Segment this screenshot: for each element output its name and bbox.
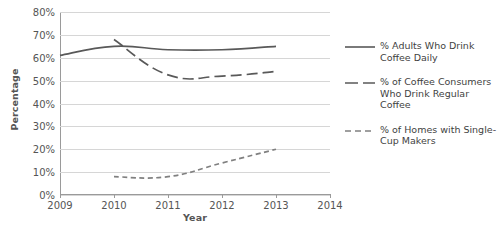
x-tick-label: 2012 [209, 200, 234, 211]
legend-label-regular-coffee: % of Coffee Consumers Who Drink Regular … [380, 76, 491, 111]
y-tick-label: 80% [33, 7, 55, 18]
series-lines [60, 12, 330, 195]
x-tick-mark [330, 194, 331, 198]
y-tick-label: 20% [33, 144, 55, 155]
x-tick-label: 2009 [47, 200, 72, 211]
legend-swatch-long-dash-icon [345, 77, 375, 89]
x-axis-title: Year [60, 212, 330, 223]
legend-line-1: % of Coffee Consumers [380, 76, 491, 87]
series-line [114, 149, 276, 178]
legend-line-1: % of Homes with Single- [380, 124, 496, 135]
line-chart: Percentage 0%10%20%30%40%50%60%70%80% 20… [0, 0, 502, 233]
legend-line-2: Cup Makers [380, 135, 436, 146]
series-line [114, 39, 276, 79]
y-tick-label: 0% [39, 190, 55, 201]
y-tick-label: 10% [33, 167, 55, 178]
legend-line-2: Coffee Daily [380, 52, 438, 63]
legend-line-3: Coffee [380, 99, 411, 110]
y-tick-label: 30% [33, 121, 55, 132]
series-line [60, 46, 276, 55]
legend-label-adults-daily: % Adults Who Drink Coffee Daily [380, 40, 474, 63]
y-tick-label: 70% [33, 29, 55, 40]
gridline: 0% [60, 195, 330, 196]
chart-legend: % Adults Who Drink Coffee Daily % of Cof… [345, 40, 502, 160]
y-tick-label: 60% [33, 52, 55, 63]
y-tick-label: 40% [33, 98, 55, 109]
x-tick-label: 2011 [155, 200, 180, 211]
legend-label-single-cup: % of Homes with Single- Cup Makers [380, 124, 496, 147]
legend-line-2: Who Drink Regular [380, 88, 469, 99]
x-tick-label: 2013 [263, 200, 288, 211]
x-tick-label: 2014 [317, 200, 342, 211]
legend-swatch-short-dash-icon [345, 125, 375, 137]
y-axis-title: Percentage [9, 55, 20, 145]
legend-item-single-cup: % of Homes with Single- Cup Makers [345, 124, 502, 147]
x-tick-label: 2010 [101, 200, 126, 211]
legend-line-1: % Adults Who Drink [380, 40, 474, 51]
legend-swatch-solid-icon [345, 41, 375, 53]
legend-item-regular-coffee: % of Coffee Consumers Who Drink Regular … [345, 76, 502, 111]
y-tick-label: 50% [33, 75, 55, 86]
plot-area: 0%10%20%30%40%50%60%70%80% 2009201020112… [60, 12, 330, 195]
legend-item-adults-daily: % Adults Who Drink Coffee Daily [345, 40, 502, 63]
